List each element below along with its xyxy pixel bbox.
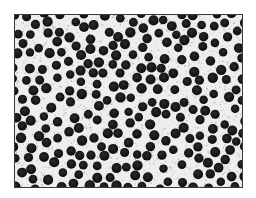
particle: [53, 74, 62, 83]
particle: [38, 65, 47, 74]
particle: [214, 163, 224, 173]
particle: [148, 98, 157, 107]
particle: [17, 168, 27, 178]
particle: [139, 23, 149, 33]
particle: [27, 143, 37, 153]
particle: [154, 29, 163, 38]
particle: [180, 98, 189, 107]
particle: [170, 102, 180, 112]
particle: [29, 175, 38, 184]
particle: [208, 73, 218, 83]
particle: [56, 93, 65, 102]
particle: [211, 39, 220, 48]
particle: [92, 90, 101, 99]
particle: [64, 32, 74, 42]
particle: [227, 172, 237, 182]
particle: [130, 170, 140, 180]
particle: [199, 96, 208, 105]
particle: [86, 151, 95, 160]
particle: [145, 119, 155, 129]
particle: [170, 85, 179, 94]
particle: [111, 50, 121, 60]
particle: [59, 168, 68, 177]
particle: [220, 120, 229, 129]
particle: [127, 93, 135, 101]
particle: [26, 164, 36, 174]
particle: [189, 105, 198, 114]
particle: [44, 48, 54, 58]
particle: [41, 124, 50, 133]
particle: [153, 84, 163, 94]
particle: [200, 106, 210, 116]
particle: [26, 48, 34, 56]
particle: [70, 113, 80, 123]
particle: [146, 74, 156, 84]
particle: [190, 51, 200, 61]
particle: [146, 142, 155, 151]
particle: [178, 178, 187, 187]
particle: [113, 128, 123, 138]
particle: [162, 38, 172, 48]
particle: [31, 95, 40, 104]
particle: [109, 108, 119, 118]
particle: [231, 104, 240, 113]
particle: [195, 115, 204, 124]
particle: [86, 35, 96, 45]
particle: [71, 41, 80, 50]
particle: [97, 142, 106, 151]
particle: [176, 113, 185, 122]
particle: [194, 154, 203, 163]
particle: [103, 96, 112, 105]
particle: [26, 30, 35, 39]
particle: [120, 148, 129, 157]
particle: [77, 78, 86, 87]
particle: [132, 160, 142, 170]
particle: [99, 46, 109, 56]
particle: [169, 145, 178, 154]
particle: [52, 37, 62, 47]
particle: [108, 41, 117, 50]
particle: [75, 151, 84, 160]
particle: [160, 54, 170, 64]
particle: [92, 173, 102, 183]
particle: [168, 68, 178, 78]
particle: [106, 173, 115, 182]
particle: [89, 133, 98, 142]
particle: [125, 27, 135, 37]
particle: [77, 135, 87, 145]
particle: [196, 131, 205, 140]
particle: [43, 17, 53, 27]
particle: [57, 48, 66, 57]
particle: [113, 32, 123, 42]
particle: [217, 178, 225, 186]
particle: [65, 86, 74, 95]
particle: [18, 121, 27, 130]
particle: [206, 56, 216, 66]
particle: [39, 152, 49, 162]
particle: [178, 160, 187, 169]
particle: [31, 20, 40, 29]
particle: [192, 85, 202, 95]
particle: [229, 62, 238, 71]
particle: [208, 135, 217, 144]
particle: [159, 164, 167, 172]
particle: [93, 115, 102, 124]
particle: [193, 142, 202, 151]
particle: [208, 124, 218, 134]
particle: [143, 172, 153, 182]
particle: [93, 80, 102, 89]
particle: [232, 137, 240, 145]
particle: [22, 76, 31, 85]
particle: [203, 158, 213, 168]
particle: [133, 150, 141, 158]
particle: [220, 155, 229, 164]
particle: [67, 159, 76, 168]
particle: [177, 55, 186, 64]
particle: [108, 120, 118, 130]
particle: [233, 27, 242, 36]
particle: [164, 177, 173, 186]
particle: [76, 66, 86, 76]
particle: [157, 64, 166, 73]
particle: [210, 147, 220, 157]
particle: [85, 44, 95, 54]
